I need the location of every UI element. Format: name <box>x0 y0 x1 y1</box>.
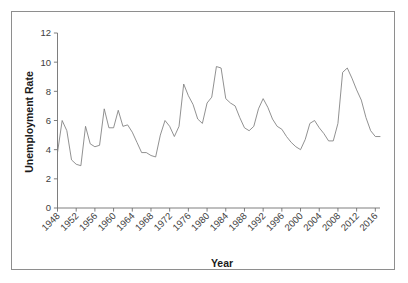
plot-area <box>58 67 381 166</box>
x-tick-label: 1984 <box>207 210 230 233</box>
x-tick-label: 2012 <box>338 210 361 233</box>
x-tick-label: 1980 <box>189 210 212 233</box>
x-axis-ticks: 1948195219561960196419681972197619801984… <box>39 208 380 233</box>
x-tick-label: 1952 <box>58 210 81 233</box>
y-tick-label: 6 <box>46 115 51 126</box>
y-tick-label: 8 <box>46 86 51 97</box>
y-axis-ticks: 024681012 <box>40 27 57 213</box>
x-tick-label: 1992 <box>245 210 268 233</box>
line-chart: 024681012 194819521956196019641968197219… <box>0 0 408 283</box>
x-tick-label: 1960 <box>95 210 118 233</box>
x-tick-label: 1988 <box>226 210 249 233</box>
x-tick-label: 1968 <box>133 210 156 233</box>
x-tick-label: 1964 <box>114 210 137 233</box>
x-tick-label: 1996 <box>264 210 287 233</box>
y-tick-label: 10 <box>40 57 51 68</box>
x-tick-label: 2008 <box>320 210 343 233</box>
x-axis-title: Year <box>211 257 233 269</box>
chart-canvas: 024681012 194819521956196019641968197219… <box>0 0 408 283</box>
y-tick-label: 2 <box>46 173 51 184</box>
x-tick-label: 1948 <box>39 210 62 233</box>
x-tick-label: 1976 <box>170 210 193 233</box>
y-axis-title: Unemployment Rate <box>23 71 35 173</box>
y-axis: 024681012 <box>40 27 57 213</box>
x-tick-label: 2004 <box>301 210 324 233</box>
x-tick-label: 1972 <box>151 210 174 233</box>
y-tick-label: 0 <box>46 202 51 213</box>
y-tick-label: 4 <box>46 144 51 155</box>
x-tick-label: 2000 <box>282 210 305 233</box>
y-tick-label: 12 <box>40 27 51 38</box>
x-axis: 1948195219561960196419681972197619801984… <box>39 208 380 233</box>
x-tick-label: 1956 <box>77 210 100 233</box>
x-tick-label: 2016 <box>357 210 380 233</box>
series-line-unemployment-rate <box>58 67 381 166</box>
